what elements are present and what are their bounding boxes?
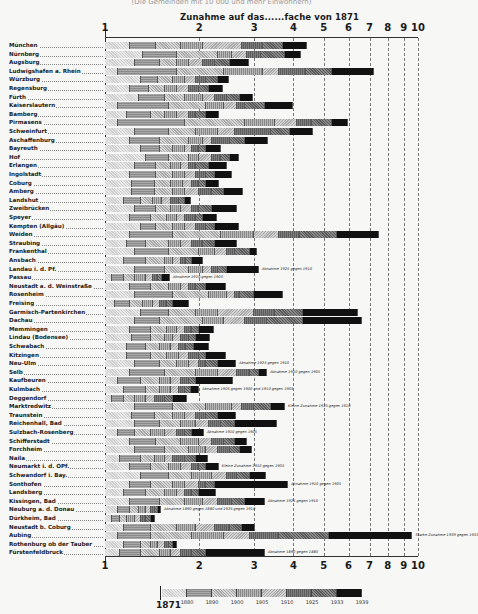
bar-segment-1933	[279, 532, 329, 539]
bar	[105, 85, 223, 92]
bar-segment-1910	[171, 343, 179, 350]
bar	[105, 42, 307, 49]
legend-swatch-1900	[212, 589, 237, 597]
bar-segment-1925	[254, 309, 275, 316]
bar-segment-1905	[169, 283, 181, 290]
bar-segment-1905	[173, 412, 185, 419]
tick-label-bottom: 1	[102, 560, 109, 571]
bar-segment-1925	[160, 300, 167, 307]
bar-segment-1939	[173, 395, 187, 402]
bar-segment-1933	[185, 455, 196, 462]
city-name: Traunstein	[9, 412, 43, 418]
bar-segment-1925	[250, 532, 279, 539]
bar	[105, 274, 170, 281]
bar	[105, 541, 177, 548]
bar-segment-1910	[232, 51, 247, 58]
bar-segment-1905	[221, 231, 254, 238]
bar-segment-1890	[124, 541, 141, 548]
bar-segment-1933	[199, 145, 206, 152]
tick-label-bottom: 7	[366, 560, 373, 571]
chart-super-title: (Die Gemeinden mit 10 000 und mehr Einwo…	[0, 0, 443, 8]
bar-segment-1939	[206, 180, 219, 187]
city-name: Selb	[9, 369, 24, 375]
bar-segment-1910	[171, 549, 181, 556]
bar-segment-1890	[135, 162, 155, 169]
bar	[105, 257, 203, 264]
bar-segment-1910	[181, 463, 192, 470]
bar-segment-1890	[118, 532, 151, 539]
bar-segment-1939	[285, 51, 301, 58]
bar-segment-1925	[279, 68, 306, 75]
bar-segment-1880	[105, 51, 143, 58]
bar	[105, 481, 288, 488]
bar-segment-1925	[189, 85, 200, 92]
bar-segment-1890	[146, 154, 169, 161]
bar-segment-1905	[203, 317, 224, 324]
bar-segment-1933	[199, 205, 212, 212]
city-name: Neu-Ulm	[9, 360, 37, 366]
bar-segment-1939	[218, 76, 229, 83]
bar-segment-1900	[151, 334, 165, 341]
bar-segment-1890	[130, 283, 151, 290]
bar-segment-1933	[218, 266, 227, 273]
bar-segment-1925	[185, 214, 196, 221]
bar-segment-1880	[105, 59, 135, 66]
bar-segment-1880	[105, 205, 135, 212]
bar	[105, 403, 285, 410]
legend-bar	[162, 589, 362, 597]
bar-segment-1939	[209, 85, 223, 92]
bar-segment-1900	[160, 59, 177, 66]
annotation: Starke Zunahme 1939 gegen 1933	[415, 533, 478, 537]
bar-segment-1900	[169, 102, 206, 109]
bar-segment-1880	[105, 532, 118, 539]
bar-segment-1890	[120, 455, 140, 462]
bar-segment-1905	[169, 240, 181, 247]
bar-segment-1890	[139, 94, 165, 101]
bar-segment-1900	[160, 498, 185, 505]
bar-segment-1939	[173, 300, 189, 307]
bar-segment-1900	[173, 403, 206, 410]
bar-segment-1900	[156, 438, 182, 445]
bar-segment-1925	[189, 111, 196, 118]
bar-segment-1939	[206, 463, 219, 470]
bar-segment-1900	[156, 42, 182, 49]
bar	[105, 94, 253, 101]
bar-segment-1890	[130, 214, 151, 221]
bar-segment-1939	[162, 274, 170, 281]
bar-segment-1880	[105, 429, 118, 436]
bar-segment-1910	[185, 171, 196, 178]
bar-segment-1939	[224, 188, 243, 195]
bar-segment-1890	[135, 420, 160, 427]
bar-segment-1939	[332, 119, 348, 126]
bar-segment-1905	[165, 111, 178, 118]
bar	[105, 386, 199, 393]
bar-segment-1905	[189, 137, 203, 144]
bar-segment-1905	[165, 85, 178, 92]
bar-segment-1880	[105, 343, 127, 350]
bar-segment-1890	[112, 395, 124, 402]
city-name: Schwabach	[9, 343, 45, 349]
bar	[105, 214, 217, 221]
bar-segment-1880	[105, 463, 130, 470]
legend-swatch-1910	[262, 589, 287, 597]
bar-segment-1880	[105, 300, 115, 307]
city-name: Kaufbeuren	[9, 377, 47, 383]
bar-segment-1939	[203, 214, 217, 221]
bar-segment-1880	[105, 412, 132, 419]
city-name: Ludwigshafen a. Rhein	[9, 68, 82, 74]
bar-segment-1910	[153, 300, 160, 307]
bar-segment-1890	[118, 429, 135, 436]
bar-segment-1939	[235, 420, 277, 427]
bar-segment-1905	[155, 455, 164, 462]
bar-segment-1905	[196, 128, 218, 135]
bar-segment-1910	[183, 180, 192, 187]
bar-segment-1910	[218, 369, 237, 376]
bar-segment-1905	[151, 541, 159, 548]
bar-segment-1905	[224, 68, 263, 75]
bar-segment-1900	[156, 171, 174, 178]
bar-segment-1910	[203, 498, 219, 505]
bar-segment-1900	[155, 412, 173, 419]
bar-segment-1890	[130, 326, 151, 333]
bar-segment-1910	[218, 309, 254, 316]
bar-segment-1890	[112, 274, 124, 281]
